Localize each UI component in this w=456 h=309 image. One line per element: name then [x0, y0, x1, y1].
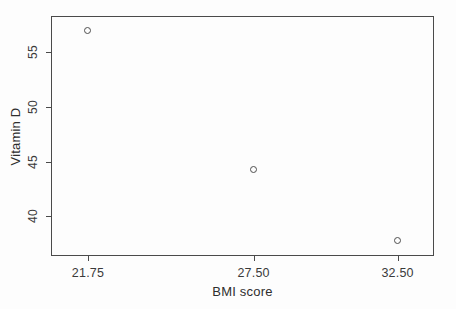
y-axis-tick-label-text: 55 [26, 45, 40, 59]
x-axis-tick [254, 255, 255, 261]
x-axis-tick-label: 32.50 [381, 266, 413, 280]
data-point [394, 237, 401, 244]
x-axis-tick-label: 27.50 [237, 266, 269, 280]
data-points-layer [52, 17, 433, 255]
y-axis-tick-label-text: 40 [26, 210, 40, 224]
y-axis-tick-label-text: 45 [26, 155, 40, 169]
x-axis-tick-label: 21.75 [72, 266, 104, 280]
data-point [250, 166, 257, 173]
x-axis-title: BMI score [51, 284, 434, 299]
y-axis-title: Vitamin D [6, 16, 26, 256]
x-axis-tick [398, 255, 399, 261]
y-axis-tick-label-text: 50 [26, 100, 40, 114]
y-axis-title-text: Vitamin D [9, 107, 24, 165]
x-axis-tick [88, 255, 89, 261]
scatter-plot-figure: Vitamin D 40455055 21.7527.5032.50 BMI s… [0, 0, 456, 309]
data-point [84, 27, 91, 34]
plot-area: 40455055 21.7527.5032.50 [51, 16, 434, 256]
